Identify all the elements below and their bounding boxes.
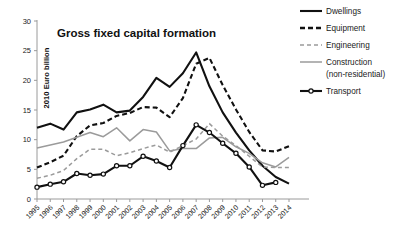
- x-tick-label: 2014: [276, 203, 294, 221]
- series-marker-transport: [128, 164, 132, 168]
- chart-title: Gross fixed capital formation: [57, 27, 216, 39]
- y-tick-label: 0: [27, 195, 31, 204]
- series-marker-transport: [274, 180, 278, 184]
- legend-label: Equipment: [326, 24, 366, 33]
- legend-label: (non-residential): [326, 70, 385, 79]
- y-tick-label: 10: [23, 135, 31, 144]
- series-marker-transport: [141, 154, 145, 158]
- series-marker-transport: [61, 180, 65, 184]
- legend-label: Engineering: [326, 41, 370, 50]
- series-marker-transport: [154, 159, 158, 163]
- legend-label: Dwellings: [326, 7, 361, 16]
- chart-container: 0510152025301995199619971998199920002001…: [0, 0, 412, 247]
- legend-marker-icon: [309, 89, 313, 93]
- legend-label: Construction: [326, 58, 372, 67]
- series-marker-transport: [114, 164, 118, 168]
- y-tick-label: 15: [23, 106, 31, 115]
- y-tick-label: 30: [23, 17, 31, 26]
- legend-item-transport: Transport: [300, 87, 361, 96]
- line-chart: 0510152025301995199619971998199920002001…: [0, 0, 412, 247]
- series-marker-transport: [88, 173, 92, 177]
- series-marker-transport: [168, 165, 172, 169]
- legend-item-construction: Construction: [300, 58, 372, 67]
- series-marker-transport: [260, 183, 264, 187]
- legend-item-equipment: Equipment: [300, 24, 366, 33]
- series-marker-transport: [247, 165, 251, 169]
- series-marker-transport: [35, 185, 39, 189]
- series-marker-transport: [101, 172, 105, 176]
- legend-item-dwellings: Dwellings: [300, 7, 361, 16]
- legend-label: Transport: [326, 87, 361, 96]
- series-marker-transport: [207, 130, 211, 134]
- legend-item-non-residential: (non-residential): [326, 70, 385, 79]
- series-line-transport: [37, 125, 276, 187]
- y-tick-label: 20: [23, 76, 31, 85]
- series-marker-transport: [234, 151, 238, 155]
- series-marker-transport: [181, 144, 185, 148]
- y-tick-label: 5: [27, 165, 31, 174]
- y-axis-title: 2010 Euro billion: [42, 47, 51, 108]
- series-marker-transport: [75, 171, 79, 175]
- legend-item-engineering: Engineering: [300, 41, 370, 50]
- series-marker-transport: [48, 182, 52, 186]
- y-tick-label: 25: [23, 46, 31, 55]
- series-marker-transport: [221, 141, 225, 145]
- series-marker-transport: [194, 123, 198, 127]
